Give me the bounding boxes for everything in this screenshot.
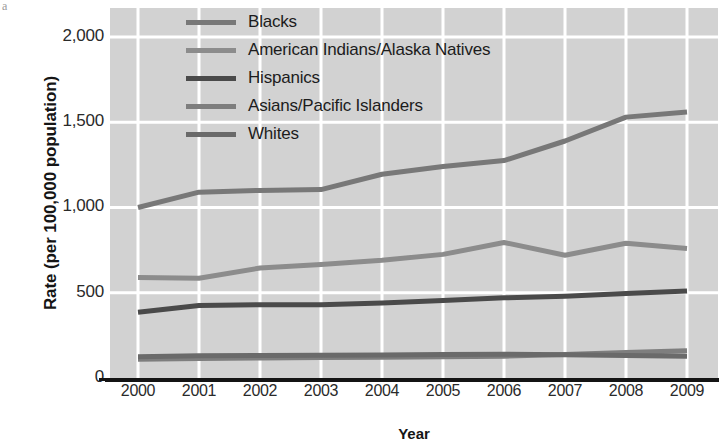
legend-swatch-icon bbox=[186, 76, 236, 81]
x-axis-tick-label: 2004 bbox=[350, 382, 414, 400]
y-axis-tick-labels: 05001,0001,5002,000 bbox=[0, 0, 104, 448]
legend-item[interactable]: Hispanics bbox=[186, 64, 516, 92]
y-axis-tick-label: 1,000 bbox=[4, 196, 104, 216]
chart-legend: BlacksAmerican Indians/Alaska NativesHis… bbox=[186, 8, 516, 148]
legend-item[interactable]: American Indians/Alaska Natives bbox=[186, 36, 516, 64]
y-axis-tick-label: 2,000 bbox=[4, 26, 104, 46]
series-line bbox=[138, 242, 687, 278]
y-axis-tick-label: 500 bbox=[4, 282, 104, 302]
x-axis-tick-label: 2003 bbox=[289, 382, 353, 400]
chart-figure: a Rate (per 100,000 population) 05001,00… bbox=[0, 0, 725, 448]
x-axis-tick-label: 2001 bbox=[167, 382, 231, 400]
legend-swatch-icon bbox=[186, 104, 236, 109]
legend-item[interactable]: Asians/Pacific Islanders bbox=[186, 92, 516, 120]
x-axis-title: Year bbox=[110, 425, 718, 442]
y-axis-tick-label: 1,500 bbox=[4, 111, 104, 131]
x-axis-tick-label: 2006 bbox=[472, 382, 536, 400]
x-axis-tick-label: 2007 bbox=[533, 382, 597, 400]
legend-swatch-icon bbox=[186, 20, 236, 25]
legend-item-label: Blacks bbox=[248, 12, 297, 32]
x-axis-tick-label: 2002 bbox=[228, 382, 292, 400]
x-axis-tick-label: 2008 bbox=[594, 382, 658, 400]
series-line bbox=[138, 354, 687, 357]
y-axis-tick-label: 0 bbox=[4, 367, 104, 387]
y-axis-zero-tick bbox=[99, 378, 110, 381]
legend-item[interactable]: Whites bbox=[186, 120, 516, 148]
x-axis-tick-label: 2009 bbox=[655, 382, 719, 400]
legend-swatch-icon bbox=[186, 132, 236, 137]
x-axis-tick-labels: 2000200120022003200420052006200720082009 bbox=[110, 382, 718, 406]
legend-item-label: Whites bbox=[248, 124, 299, 144]
legend-item-label: American Indians/Alaska Natives bbox=[248, 40, 490, 60]
x-axis-tick-label: 2005 bbox=[411, 382, 475, 400]
legend-item-label: Hispanics bbox=[248, 68, 320, 88]
x-axis-tick-label: 2000 bbox=[106, 382, 170, 400]
legend-swatch-icon bbox=[186, 48, 236, 53]
legend-item[interactable]: Blacks bbox=[186, 8, 516, 36]
legend-item-label: Asians/Pacific Islanders bbox=[248, 96, 423, 116]
